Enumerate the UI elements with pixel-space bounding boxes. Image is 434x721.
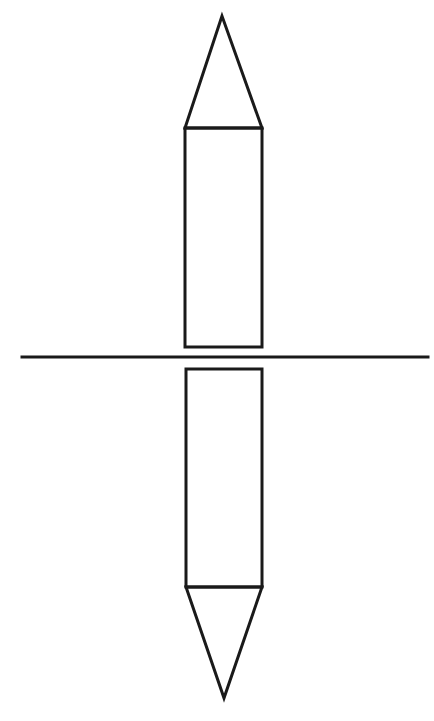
diagram-canvas — [0, 0, 434, 721]
top-pencil-body — [185, 128, 262, 347]
bottom-pencil-tip — [186, 587, 262, 698]
reflection-diagram — [0, 0, 434, 721]
bottom-pencil-body — [186, 369, 262, 587]
top-pencil-tip — [185, 16, 262, 128]
